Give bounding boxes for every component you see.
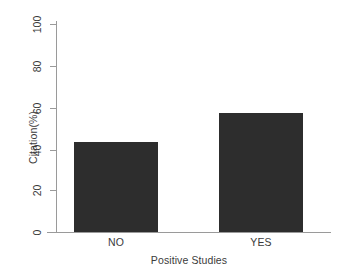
x-axis-line <box>47 232 331 233</box>
y-tick-mark-60 <box>50 108 56 109</box>
x-axis-title: Positive Studies <box>47 254 331 266</box>
bar-no <box>74 142 158 232</box>
bar-chart: Citation(%) 0 20 40 60 80 100 NO YES Pos… <box>0 0 342 275</box>
y-tick-label-40: 40 <box>31 134 44 168</box>
y-tick-label-100: 100 <box>31 8 44 42</box>
y-tick-mark-80 <box>50 66 56 67</box>
y-tick-mark-0 <box>50 232 56 233</box>
bar-yes <box>219 113 303 232</box>
x-tick-label-no: NO <box>71 236 161 248</box>
y-tick-mark-100 <box>50 24 56 25</box>
y-tick-label-60: 60 <box>31 92 44 126</box>
y-tick-mark-20 <box>50 190 56 191</box>
y-tick-mark-40 <box>50 150 56 151</box>
y-tick-label-20: 20 <box>31 174 44 208</box>
y-tick-label-80: 80 <box>31 50 44 84</box>
x-tick-label-yes: YES <box>216 236 306 248</box>
y-tick-label-0: 0 <box>31 216 44 250</box>
y-axis-line <box>56 21 57 233</box>
